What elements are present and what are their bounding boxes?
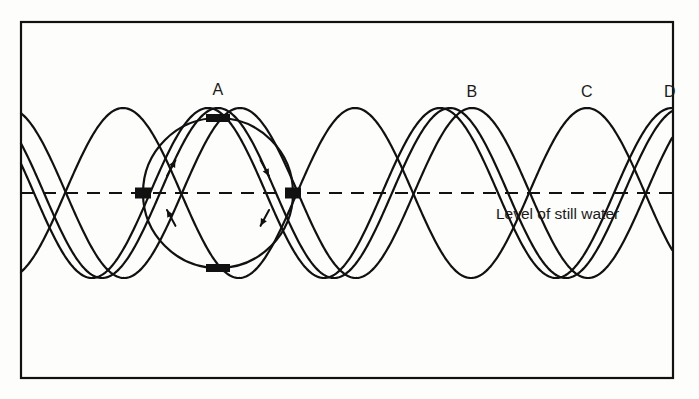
arrow-upper-right: [261, 160, 269, 176]
wave-canvas: [0, 0, 699, 399]
diagram-frame: [21, 22, 673, 378]
crest-label-c: C: [581, 83, 593, 101]
wave-diagram: ABCD Level of still water: [0, 0, 699, 399]
arrow-lower-right: [261, 210, 269, 226]
marker-top: [206, 114, 230, 122]
crest-label-a: A: [212, 81, 223, 99]
still-water-caption: Level of still water: [496, 205, 619, 223]
crest-label-b: B: [466, 83, 477, 101]
crest-label-d: D: [664, 83, 676, 101]
marker-bottom: [206, 264, 230, 272]
